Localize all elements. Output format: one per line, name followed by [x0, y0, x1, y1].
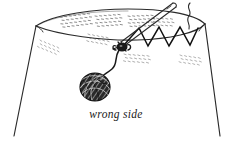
stipple-dash — [101, 19, 103, 20]
stipple-dash — [83, 14, 85, 15]
stipple-dash — [85, 17, 87, 18]
stipple-dash — [80, 18, 82, 19]
stipple-dash — [148, 19, 150, 20]
stipple-dash — [130, 26, 132, 27]
stipple-dash — [151, 22, 153, 23]
stipple-dash — [105, 22, 107, 23]
caption-wrong-side: wrong side — [89, 108, 142, 121]
stipple-dash — [128, 16, 130, 17]
stipple-dash — [133, 16, 135, 17]
stipple-dash — [106, 18, 108, 19]
stipple-dash — [97, 19, 99, 20]
stipple-dash — [111, 18, 113, 19]
stipple-dash — [76, 18, 78, 19]
stipple-dash — [88, 20, 90, 21]
stipple-dash — [84, 21, 86, 22]
stipple-dash — [128, 23, 130, 24]
knot-highlight — [120, 45, 123, 47]
stipple-dash — [74, 15, 76, 16]
stipple-dash — [70, 22, 72, 23]
stipple-dash — [75, 22, 77, 23]
stipple-dash — [81, 24, 83, 25]
stipple-dash — [116, 25, 118, 26]
stipple-dash — [100, 16, 102, 17]
stipple-dash — [95, 16, 97, 17]
stipple-dash — [67, 26, 69, 27]
stipple-dash — [72, 26, 74, 27]
thread-ball — [80, 73, 110, 101]
stipple-dash — [130, 19, 132, 20]
stipple-dash — [142, 15, 144, 16]
stipple-dash — [67, 19, 69, 20]
stipple-dash — [109, 15, 111, 16]
stipple-dash — [65, 23, 67, 24]
stipple-dash — [109, 22, 111, 23]
figure-background — [0, 0, 235, 148]
stipple-dash — [139, 19, 141, 20]
stipple-dash — [144, 19, 146, 20]
stipple-dash — [134, 19, 136, 20]
stipple-dash — [120, 18, 122, 19]
stipple-dash — [95, 23, 97, 24]
stipple-dash — [87, 13, 89, 14]
sewing-diagram-figure: wrong side — [0, 0, 235, 148]
stipple-dash — [63, 27, 65, 28]
stipple-dash — [60, 17, 62, 18]
stipple-dash — [106, 25, 108, 26]
stipple-dash — [118, 14, 120, 15]
stipple-dash — [118, 21, 120, 22]
stipple-dash — [144, 26, 146, 27]
stipple-dash — [69, 16, 71, 17]
stipple-dash — [146, 15, 148, 16]
stipple-dash — [71, 19, 73, 20]
stipple-dash — [151, 15, 153, 16]
stipple-dash — [133, 23, 135, 24]
stipple-dash — [65, 16, 67, 17]
stipple-dash — [137, 16, 139, 17]
stipple-dash — [79, 21, 81, 22]
stipple-dash — [86, 24, 88, 25]
stipple-dash — [77, 25, 79, 26]
stipple-dash — [111, 25, 113, 26]
stipple-dash — [137, 22, 139, 23]
stipple-dash — [100, 22, 102, 23]
stipple-dash — [89, 17, 91, 18]
stipple-dash — [62, 20, 64, 21]
stipple-dash — [104, 15, 106, 16]
stipple-dash — [113, 15, 115, 16]
stipple-dash — [135, 26, 137, 27]
stipple-dash — [142, 22, 144, 23]
stipple-dash — [97, 26, 99, 27]
stipple-dash — [102, 26, 104, 27]
figure-canvas: wrong side — [0, 0, 235, 148]
stipple-dash — [78, 15, 80, 16]
stipple-dash — [61, 23, 63, 24]
stipple-dash — [139, 26, 141, 27]
stipple-dash — [120, 24, 122, 25]
stipple-dash — [90, 23, 92, 24]
stipple-dash — [115, 18, 117, 19]
stipple-dash — [114, 21, 116, 22]
